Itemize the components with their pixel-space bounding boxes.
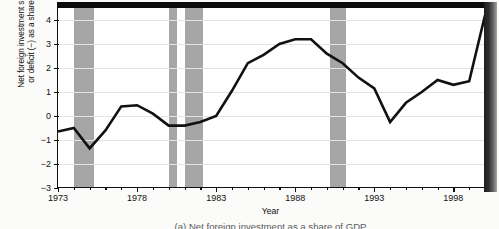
x-tick-minor (185, 187, 186, 190)
y-tick-label: 2 (46, 64, 51, 73)
y-axis-label: Net foreign investment surplus (+) or de… (12, 0, 40, 117)
figure-net-foreign-investment: Net foreign investment surplus (+) or de… (0, 0, 499, 229)
x-tick-label: 1973 (48, 194, 68, 203)
y-axis-label-line2: or deficit (−) as a share of GDP (26, 0, 36, 83)
y-tick (54, 44, 59, 45)
x-tick-major (137, 187, 138, 192)
x-tick-minor (311, 187, 312, 190)
y-tick-label: 0 (46, 112, 51, 121)
y-tick-label: −1 (41, 136, 51, 145)
x-tick-minor (232, 187, 233, 190)
x-tick-minor (169, 187, 170, 190)
x-tick-minor (153, 187, 154, 190)
x-tick-major (295, 187, 296, 192)
x-tick-minor (422, 187, 423, 190)
x-tick-major (453, 187, 454, 192)
x-tick-minor (264, 187, 265, 190)
page-edge-shadow (484, 2, 497, 192)
x-tick-label: 1993 (364, 194, 384, 203)
x-tick-minor (406, 187, 407, 190)
x-tick-minor (74, 187, 75, 190)
y-tick-label: 4 (46, 16, 51, 25)
y-tick (54, 68, 59, 69)
x-tick-minor (279, 187, 280, 190)
plot-area: 43210−1−2−3 197319781983198819931998 (57, 8, 484, 188)
y-tick-label: 3 (46, 40, 51, 49)
x-tick-minor (121, 187, 122, 190)
x-tick-minor (327, 187, 328, 190)
x-tick-minor (358, 187, 359, 190)
x-axis-label: Year (57, 206, 484, 216)
x-tick-label: 1988 (285, 194, 305, 203)
x-tick-minor (390, 187, 391, 190)
x-tick-minor (469, 187, 470, 190)
x-tick-minor (438, 187, 439, 190)
y-tick-label: −2 (41, 160, 51, 169)
x-tick-major (58, 187, 59, 192)
x-tick-label: 1983 (206, 194, 226, 203)
y-tick (54, 164, 59, 165)
x-tick-minor (105, 187, 106, 190)
y-tick (54, 140, 59, 141)
x-tick-minor (90, 187, 91, 190)
x-tick-minor (343, 187, 344, 190)
y-tick-label: 1 (46, 88, 51, 97)
plot-clip (58, 8, 484, 187)
figure-caption: (a) Net foreign investment as a share of… (57, 221, 484, 229)
x-tick-major (374, 187, 375, 192)
data-line (58, 8, 484, 187)
y-tick (54, 116, 59, 117)
x-tick-label: 1978 (127, 194, 147, 203)
y-tick (54, 92, 59, 93)
y-tick (54, 20, 59, 21)
y-axis-label-line1: Net foreign investment surplus (+) (16, 0, 26, 88)
x-tick-minor (248, 187, 249, 190)
x-tick-major (216, 187, 217, 192)
x-tick-label: 1998 (443, 194, 463, 203)
y-tick-label: −3 (41, 184, 51, 193)
x-tick-minor (200, 187, 201, 190)
